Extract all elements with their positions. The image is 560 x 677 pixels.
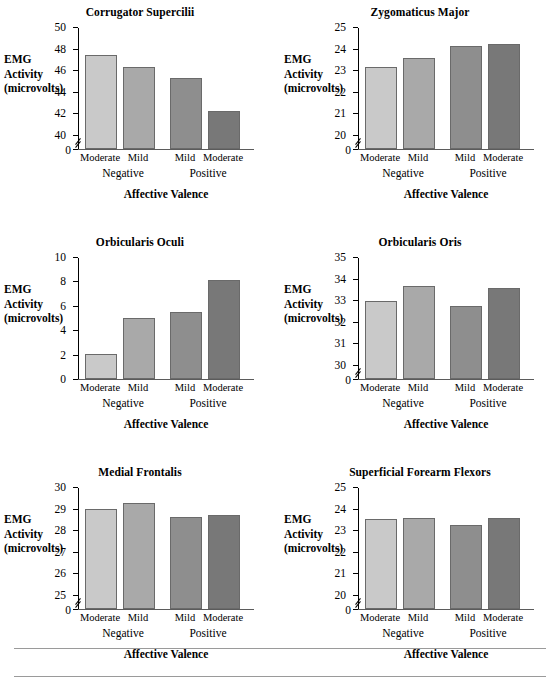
y-axis-zero-label: 0 [345,604,351,616]
y-axis-tick-label: 31 [335,343,347,344]
y-axis-zero-label: 0 [65,604,71,616]
x-axis-tick-label: Moderate [475,612,531,623]
y-axis-zero-label: 0 [345,374,351,386]
y-axis-tick-label: 50 [55,27,67,28]
y-axis-tick-label: 26 [55,573,67,574]
y-axis-tick-label: 21 [335,573,347,574]
chart-title: Orbicularis Oculi [0,236,280,248]
chart-title: Orbicularis Oris [280,236,560,248]
y-axis-tick-label: 24 [335,509,347,510]
x-axis-label: Affective Valence [72,418,260,430]
y-axis-tick-label: 4 [60,330,66,331]
y-axis-tick-label: 34 [335,279,347,280]
x-axis-categories: ModerateMildMildModerateNegativePositive [358,152,534,186]
y-axis-tick-label: 25 [335,487,347,488]
y-axis-tick: 10 [73,257,78,258]
chart-panel: Orbicularis OculiEMGActivity(microvolts)… [0,230,280,460]
y-axis-tick: 23 [353,70,358,71]
chart-panel: Zygomaticus MajorEMGActivity(microvolts)… [280,0,560,230]
x-axis-categories: ModerateMildMildModerateNegativePositive [78,612,254,646]
y-axis-zero-label: 0 [345,144,351,156]
y-axis-zero-label: 0 [65,144,71,156]
x-axis-categories: ModerateMildMildModerateNegativePositive [78,382,254,416]
x-axis-tick-label: Moderate [475,152,531,163]
chart-title: Zygomaticus Major [280,6,560,18]
bar [488,288,520,379]
x-axis-label: Affective Valence [352,188,540,200]
bar [170,78,202,149]
y-axis-tick: 25 [73,595,78,596]
bar-series [79,488,246,609]
y-axis-tick: 30 [353,365,358,366]
y-axis-zero-tick [353,149,358,150]
y-axis-tick-label: 44 [55,92,67,93]
y-axis-tick-label: 42 [55,113,67,114]
chart-title: Corrugator Supercilii [0,6,280,18]
y-axis-tick-label: 25 [55,595,67,596]
x-axis-group-label: Negative [88,167,158,179]
bar [208,515,240,609]
plot-area: 2021222324250ModerateMildMildModerateNeg… [358,488,526,610]
y-axis-tick: 31 [353,343,358,344]
bar [365,519,397,609]
y-axis-tick: 35 [353,257,358,258]
plot-area: 3031323334350ModerateMildMildModerateNeg… [358,258,526,380]
y-axis-tick: 23 [353,530,358,531]
y-axis-tick: 20 [353,595,358,596]
x-axis-line [78,379,254,380]
x-axis-categories: ModerateMildMildModerateNegativePositive [358,382,534,416]
y-axis-tick: 20 [353,135,358,136]
x-axis-label: Affective Valence [72,188,260,200]
x-axis-categories: ModerateMildMildModerateNegativePositive [358,612,534,646]
y-axis-tick: 8 [73,281,78,282]
x-axis-tick-label: Moderate [195,382,251,393]
y-axis-tick-label: 0 [60,379,66,380]
y-axis-tick-label: 22 [335,92,347,93]
x-axis-tick-label: Moderate [195,612,251,623]
y-axis-tick: 24 [353,49,358,50]
x-axis-label: Affective Valence [352,648,540,660]
y-axis-tick-label: 35 [335,257,347,258]
x-axis-group-label: Negative [368,627,438,639]
y-axis-tick-label: 23 [335,530,347,531]
bar [208,111,240,149]
y-axis-tick-label: 46 [55,70,67,71]
x-axis-line [78,149,254,150]
y-axis-tick: 42 [73,113,78,114]
y-axis-tick-label: 6 [60,306,66,307]
bar [170,517,202,609]
bar [365,301,397,379]
y-axis-tick: 22 [353,552,358,553]
y-axis-tick: 28 [73,530,78,531]
y-axis-tick: 25 [353,27,358,28]
y-axis-tick: 44 [73,92,78,93]
chart-grid: Corrugator SuperciliiEMGActivity(microvo… [0,0,560,648]
bar [403,286,435,379]
y-axis-tick-label: 8 [60,281,66,282]
x-axis-group-label: Negative [368,397,438,409]
bar [488,44,520,149]
chart-panel: Orbicularis OrisEMGActivity(microvolts)3… [280,230,560,460]
y-axis-tick: 21 [353,113,358,114]
y-axis-tick-label: 33 [335,300,347,301]
y-axis-tick-label: 30 [55,487,67,488]
y-axis-zero-tick [73,609,78,610]
bar-series [359,488,526,609]
y-axis-tick-label: 25 [335,27,347,28]
bar [450,525,482,609]
bar [450,306,482,379]
bar [403,58,435,149]
y-axis-tick: 22 [353,92,358,93]
y-axis-tick: 50 [73,27,78,28]
y-axis-tick: 4 [73,330,78,331]
y-axis-tick-label: 20 [335,595,347,596]
x-axis-tick-label: Moderate [475,382,531,393]
y-axis-tick: 24 [353,509,358,510]
y-axis-tick: 27 [73,552,78,553]
y-axis-tick-label: 40 [55,135,67,136]
x-axis-tick-label: Moderate [195,152,251,163]
y-axis-zero-tick [353,609,358,610]
chart-panel: Corrugator SuperciliiEMGActivity(microvo… [0,0,280,230]
x-axis-line [78,609,254,610]
y-axis-tick: 34 [353,279,358,280]
